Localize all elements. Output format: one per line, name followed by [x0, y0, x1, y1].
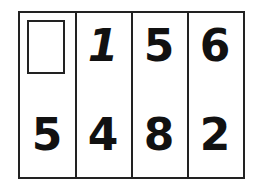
top-cell-3: 5 — [131, 24, 187, 68]
bottom-cell-3: 8 — [131, 113, 187, 157]
top-cell-2: 1 — [75, 24, 131, 68]
bottom-cell-4: 2 — [187, 113, 243, 157]
top-cell-4: 6 — [187, 24, 243, 68]
bottom-cell-1: 5 — [19, 113, 75, 157]
bottom-cell-2: 4 — [75, 113, 131, 157]
blank-answer-box[interactable] — [27, 20, 65, 74]
